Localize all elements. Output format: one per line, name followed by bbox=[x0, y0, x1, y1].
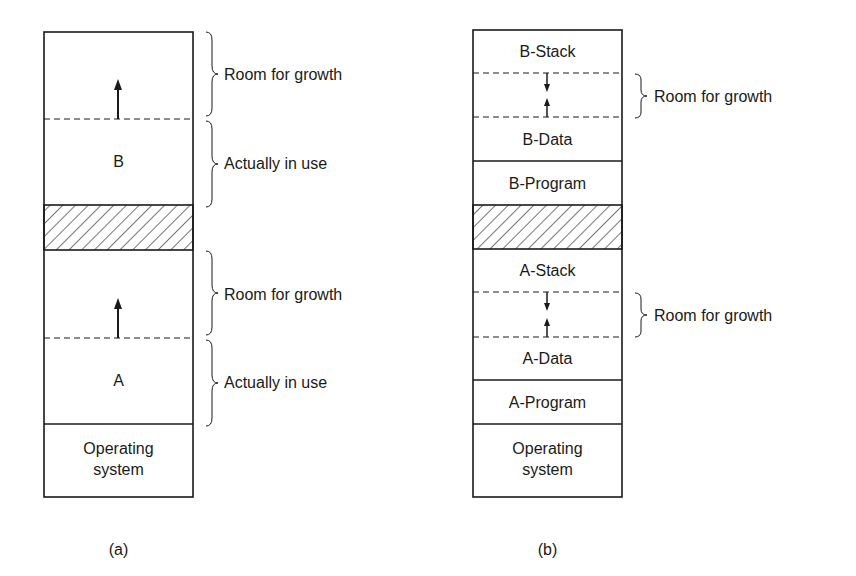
brace-icon bbox=[206, 251, 218, 335]
brace-label-room-for-growth-a: Room for growth bbox=[224, 286, 342, 304]
figure-a-memory-column bbox=[44, 32, 218, 497]
segment-b-program: B-Program bbox=[473, 174, 622, 194]
up-arrow-icon bbox=[114, 79, 122, 119]
os-label-line2: system bbox=[473, 460, 622, 480]
hatched-unused-region bbox=[44, 205, 193, 250]
down-arrow-icon bbox=[544, 73, 550, 92]
brace-icon bbox=[206, 32, 218, 116]
up-arrow-icon bbox=[544, 98, 550, 117]
up-arrow-icon bbox=[114, 298, 122, 338]
segment-a-stack: A-Stack bbox=[473, 261, 622, 281]
caption-a: (a) bbox=[44, 540, 193, 560]
segment-label-a: A bbox=[44, 371, 193, 391]
segment-label-b: B bbox=[44, 152, 193, 172]
segment-b-data: B-Data bbox=[473, 130, 622, 150]
caption-b: (b) bbox=[473, 540, 622, 560]
brace-label-in-use-b: Actually in use bbox=[224, 155, 327, 173]
brace-icon bbox=[206, 121, 218, 207]
segment-a-program: A-Program bbox=[473, 393, 622, 413]
down-arrow-icon bbox=[544, 292, 550, 311]
brace-label-room-for-growth-b: Room for growth bbox=[654, 88, 772, 106]
segment-a-data: A-Data bbox=[473, 349, 622, 369]
memory-layout-diagram bbox=[0, 0, 856, 576]
brace-icon bbox=[206, 340, 218, 426]
brace-label-room-for-growth-b: Room for growth bbox=[224, 66, 342, 84]
brace-label-in-use-a: Actually in use bbox=[224, 374, 327, 392]
os-label-line1: Operating bbox=[473, 439, 622, 459]
brace-icon bbox=[635, 293, 647, 337]
up-arrow-icon bbox=[544, 318, 550, 337]
brace-icon bbox=[635, 74, 647, 118]
brace-label-room-for-growth-a: Room for growth bbox=[654, 307, 772, 325]
hatched-unused-region bbox=[473, 205, 622, 249]
os-label-line2: system bbox=[44, 460, 193, 480]
segment-b-stack: B-Stack bbox=[473, 42, 622, 62]
os-label-line1: Operating bbox=[44, 439, 193, 459]
